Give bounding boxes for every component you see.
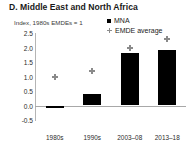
x-axis-tick-label: 1990s	[84, 134, 101, 141]
bar	[121, 53, 139, 105]
y-axis-line	[35, 33, 36, 121]
chart-figure: D. Middle East and North Africa Index, 1…	[0, 0, 189, 152]
bar	[158, 50, 176, 105]
plot-area	[0, 0, 189, 152]
bar	[83, 94, 101, 106]
data-marker	[127, 45, 133, 51]
data-marker	[164, 36, 170, 42]
x-axis-tick-label: 2003–08	[117, 134, 142, 141]
bar	[46, 106, 64, 109]
x-axis-tick-label: 2013–18	[155, 134, 180, 141]
x-axis-tick-label: 1980s	[46, 134, 63, 141]
data-marker	[89, 68, 95, 74]
data-marker	[52, 74, 58, 80]
